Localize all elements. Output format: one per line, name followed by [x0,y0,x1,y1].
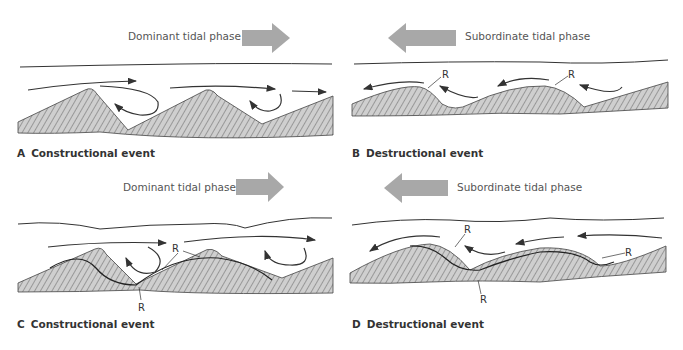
caption-letter: C [17,318,25,330]
reactivation-label: R [464,224,471,235]
water-surface [20,64,332,68]
caption-a: AConstructional event [17,147,155,159]
bedform [18,89,333,138]
flow-direction-arrow-right [242,30,272,46]
reactivation-label: R [138,302,145,313]
flow-direction-arrow-left [406,30,456,46]
reactivation-label: R [480,294,487,305]
caption-letter: D [352,318,361,330]
phase-label-b: Subordinate tidal phase [465,30,590,42]
reactivation-label: R [625,247,632,258]
caption-d: DDestructional event [352,318,484,330]
reactivation-label: R [172,243,179,254]
bedform [350,244,666,283]
caption-text: Constructional event [31,147,155,159]
diagram-canvas: R R R R R R R [0,0,683,350]
water-surface [18,218,332,229]
reactivation-label: R [568,69,575,80]
phase-label-c: Dominant tidal phase [123,181,236,193]
caption-text: Destructional event [366,147,483,159]
water-surface [352,218,664,225]
flow-direction-arrow-left [402,180,448,196]
phase-label-d: Subordinate tidal phase [457,181,582,193]
caption-c: CConstructional event [17,318,155,330]
reactivation-label: R [442,69,449,80]
flow-direction-arrow-right [236,179,268,195]
caption-letter: A [17,147,25,159]
phase-label-a: Dominant tidal phase [128,30,241,42]
caption-text: Destructional event [367,318,484,330]
caption-text: Constructional event [31,318,155,330]
bedform [18,248,333,293]
caption-letter: B [352,147,360,159]
bedform [352,82,668,116]
panel-c-diagram: R R [18,172,333,313]
caption-b: BDestructional event [352,147,483,159]
water-surface [354,60,668,64]
